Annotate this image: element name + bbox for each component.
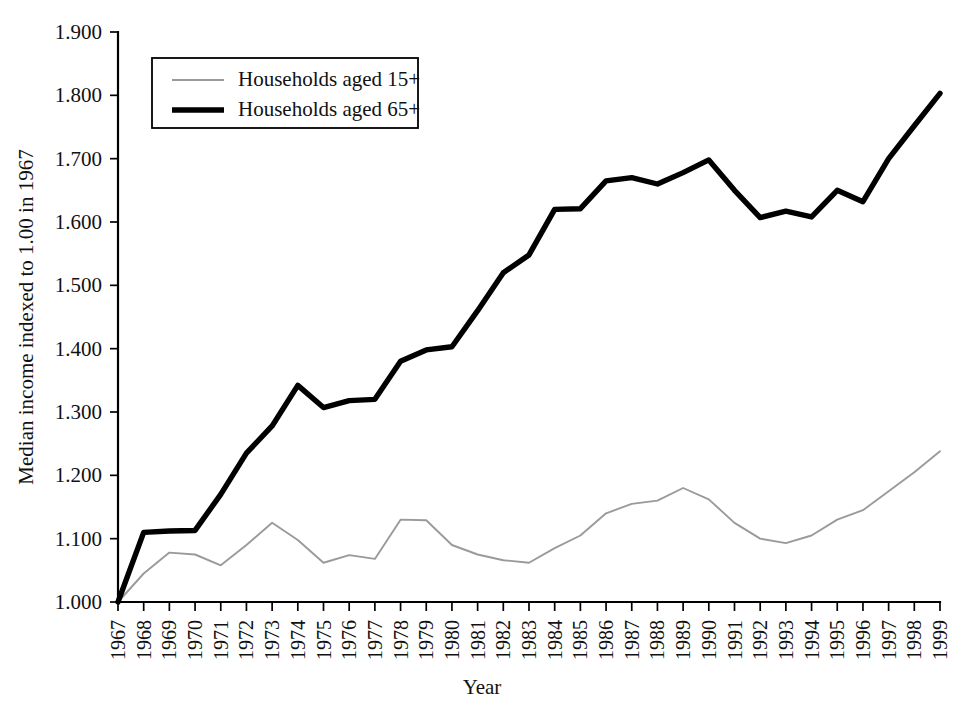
y-axis-tick-label: 1.100: [55, 527, 102, 551]
y-axis-tick-label: 1.800: [55, 83, 102, 107]
x-axis-tick-label: 1990: [698, 620, 720, 660]
x-axis-tick-label: 1968: [133, 620, 155, 660]
y-axis-tick-label: 1.400: [55, 337, 102, 361]
x-axis-tick-label: 1982: [492, 620, 514, 660]
x-axis-tick-label: 1989: [672, 620, 694, 660]
x-axis-tick-label: 1977: [364, 620, 386, 660]
y-axis-title: Median income indexed to 1.00 in 1967: [14, 149, 38, 484]
x-axis-tick-label: 1994: [801, 620, 823, 660]
series-line-households-65plus: [118, 93, 940, 602]
x-axis-tick-label: 1995: [826, 620, 848, 660]
x-axis-tick-label: 1978: [390, 620, 412, 660]
x-axis-tick-label: 1974: [287, 620, 309, 660]
x-axis-tick-label: 1987: [621, 620, 643, 660]
x-axis-ticks: [118, 602, 940, 611]
x-axis-tick-label: 1971: [210, 620, 232, 660]
x-axis-tick-label: 1991: [724, 620, 746, 660]
x-axis-tick-label: 1970: [184, 620, 206, 660]
x-axis-tick-label: 1967: [107, 620, 129, 660]
x-axis-tick-label: 1986: [595, 620, 617, 660]
x-axis-tick-label: 1973: [261, 620, 283, 660]
x-axis-tick-label: 1969: [158, 620, 180, 660]
x-axis-tick-label: 1988: [646, 620, 668, 660]
x-axis-tick-label: 1993: [775, 620, 797, 660]
y-axis-tick-label: 1.500: [55, 273, 102, 297]
y-axis-tick-label: 1.900: [55, 20, 102, 44]
x-axis-tick-label: 1999: [929, 620, 951, 660]
series-line-households-15plus: [118, 451, 940, 602]
x-axis-tick-label: 1979: [415, 620, 437, 660]
legend-label-households-65plus: Households aged 65+: [238, 97, 420, 121]
y-axis-tick-label: 1.700: [55, 147, 102, 171]
x-axis-title: Year: [463, 675, 502, 699]
y-axis-tick-label: 1.200: [55, 463, 102, 487]
chart-legend: Households aged 15+ Households aged 65+: [152, 58, 420, 128]
line-chart: 1.9001.8001.7001.6001.5001.4001.3001.200…: [0, 0, 960, 709]
x-axis-tick-label: 1972: [235, 620, 257, 660]
x-axis-tick-label: 1984: [544, 620, 566, 660]
x-axis-tick-label: 1980: [441, 620, 463, 660]
y-axis-tick-label: 1.000: [55, 590, 102, 614]
legend-label-households-15plus: Households aged 15+: [238, 67, 420, 91]
x-axis-tick-label: 1997: [878, 620, 900, 660]
y-axis-tick-label: 1.600: [55, 210, 102, 234]
y-axis: 1.9001.8001.7001.6001.5001.4001.3001.200…: [14, 20, 118, 614]
x-axis-tick-labels: 1967196819691970197119721973197419751976…: [107, 620, 951, 660]
x-axis-tick-label: 1996: [852, 620, 874, 660]
x-axis-tick-label: 1975: [313, 620, 335, 660]
chart-container: 1.9001.8001.7001.6001.5001.4001.3001.200…: [0, 0, 960, 709]
y-axis-ticks: [110, 32, 118, 602]
data-series-group: [118, 93, 940, 602]
x-axis-tick-label: 1983: [518, 620, 540, 660]
x-axis-tick-label: 1981: [467, 620, 489, 660]
y-axis-tick-labels: 1.9001.8001.7001.6001.5001.4001.3001.200…: [55, 20, 102, 614]
x-axis-tick-label: 1985: [569, 620, 591, 660]
x-axis-tick-label: 1998: [903, 620, 925, 660]
y-axis-tick-label: 1.300: [55, 400, 102, 424]
x-axis: 1967196819691970197119721973197419751976…: [107, 602, 951, 699]
x-axis-tick-label: 1992: [749, 620, 771, 660]
x-axis-tick-label: 1976: [338, 620, 360, 660]
